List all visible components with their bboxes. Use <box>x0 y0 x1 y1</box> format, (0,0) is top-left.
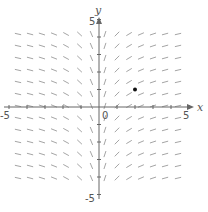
slope-segment <box>90 55 92 61</box>
slope-segment <box>126 116 131 119</box>
slope-segment <box>115 116 120 121</box>
slope-segment <box>138 117 144 120</box>
slope-segment <box>51 177 57 179</box>
slope-segment <box>175 177 181 178</box>
slope-segment <box>15 81 21 82</box>
slope-segment <box>77 176 82 180</box>
slope-segment <box>104 79 106 85</box>
slope-segment <box>175 129 181 130</box>
slope-segment <box>115 32 120 37</box>
slope-segment <box>39 69 45 71</box>
slope-segment <box>90 175 92 181</box>
slope-segment <box>115 140 120 145</box>
slope-segment <box>175 117 181 118</box>
slope-segment <box>39 57 45 59</box>
slope-segment <box>90 127 92 133</box>
x-max-tick-label: 5 <box>183 110 189 121</box>
slope-segment <box>115 68 120 73</box>
slope-segment <box>77 56 82 60</box>
slope-segment <box>77 128 82 132</box>
slope-segment <box>39 117 45 119</box>
slope-segment <box>104 91 106 97</box>
slope-segment <box>162 93 168 95</box>
slope-segment <box>175 33 181 34</box>
slope-segment <box>51 117 57 119</box>
origin-label: 0 <box>102 110 108 121</box>
slope-segment <box>15 33 21 34</box>
slope-segment <box>51 81 57 83</box>
slope-segment <box>15 45 21 46</box>
slope-segment <box>15 165 21 166</box>
slope-segment <box>126 80 131 83</box>
slope-segment <box>150 45 156 47</box>
slope-segment <box>126 32 131 35</box>
slope-segment <box>90 115 92 121</box>
slope-segment <box>150 129 156 131</box>
slope-segment <box>126 176 131 179</box>
slope-segment <box>162 153 168 155</box>
slope-segment <box>27 129 33 131</box>
slope-segment <box>138 69 144 72</box>
slope-segment <box>39 165 45 167</box>
axes <box>4 17 194 199</box>
slope-segment <box>162 57 168 59</box>
slope-segment <box>104 67 106 73</box>
slope-segment <box>77 32 82 36</box>
slope-segment <box>39 33 45 35</box>
slope-segment <box>63 140 69 143</box>
slope-segment <box>162 141 168 143</box>
slope-segment <box>150 117 156 119</box>
slope-field-chart: x y -5 5 5 -5 0 <box>0 0 208 212</box>
slope-segment <box>77 152 82 156</box>
slope-segment <box>104 31 106 37</box>
slope-segment <box>39 141 45 143</box>
slope-segment <box>175 57 181 58</box>
slope-segment <box>63 153 69 156</box>
slope-segment <box>15 69 21 70</box>
slope-segment <box>150 93 156 95</box>
slope-segment <box>175 81 181 82</box>
highlight-point <box>133 88 137 92</box>
slope-segment <box>27 69 33 71</box>
slope-segment <box>27 177 33 179</box>
slope-segment <box>104 103 106 109</box>
slope-segment <box>162 81 168 83</box>
slope-segment <box>162 33 168 35</box>
slope-segment <box>104 151 106 157</box>
slope-segment <box>63 93 69 96</box>
slope-segment <box>15 129 21 130</box>
slope-segment <box>15 141 21 142</box>
slope-segment <box>15 57 21 58</box>
slope-segment <box>175 105 181 106</box>
slope-segment <box>77 92 82 96</box>
slope-segment <box>162 45 168 47</box>
slope-segment <box>126 56 131 59</box>
slope-segment <box>138 45 144 48</box>
slope-segment <box>27 153 33 155</box>
slope-segment <box>39 45 45 47</box>
slope-segment <box>51 153 57 155</box>
slope-segment <box>115 152 120 157</box>
slope-segment <box>150 177 156 179</box>
slope-segment <box>126 92 131 95</box>
slope-segment <box>77 68 82 72</box>
slope-segment <box>90 151 92 157</box>
slope-segment <box>138 93 144 96</box>
slope-segment <box>63 128 69 131</box>
slope-segment <box>104 175 106 181</box>
slope-segment <box>175 93 181 94</box>
slope-segment <box>51 129 57 131</box>
slope-segment <box>115 92 120 97</box>
slope-segment <box>63 44 69 47</box>
slope-segment <box>51 33 57 35</box>
x-min-tick-label: -5 <box>0 110 10 121</box>
slope-segment <box>77 140 82 144</box>
slope-segment <box>162 165 168 167</box>
slope-segment <box>150 81 156 83</box>
slope-segment <box>115 44 120 49</box>
y-axis-arrow-icon <box>96 17 102 24</box>
slope-segment <box>162 69 168 71</box>
x-axis-label: x <box>197 101 204 114</box>
slope-segment <box>115 56 120 61</box>
slope-segment <box>126 128 131 131</box>
